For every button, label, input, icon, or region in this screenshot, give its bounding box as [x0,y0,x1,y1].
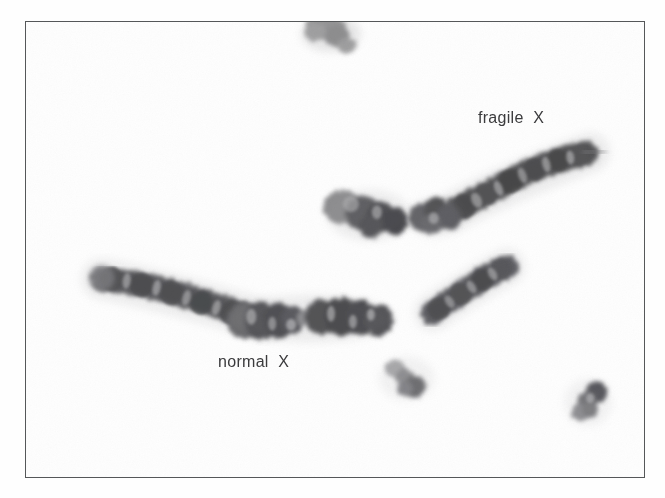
label-fragile-x: fragile X [478,110,544,126]
label-normal-x: normal X [218,354,289,370]
micrograph-image [26,22,644,477]
figure-root: fragile X normal X [0,0,665,498]
chromosome-small-lower [379,357,435,401]
chromosome-bottom-right [564,378,612,426]
chromosome-mid-right [407,197,463,237]
micrograph-frame: fragile X normal X [25,21,645,478]
chromosome-normal-x [227,295,394,343]
